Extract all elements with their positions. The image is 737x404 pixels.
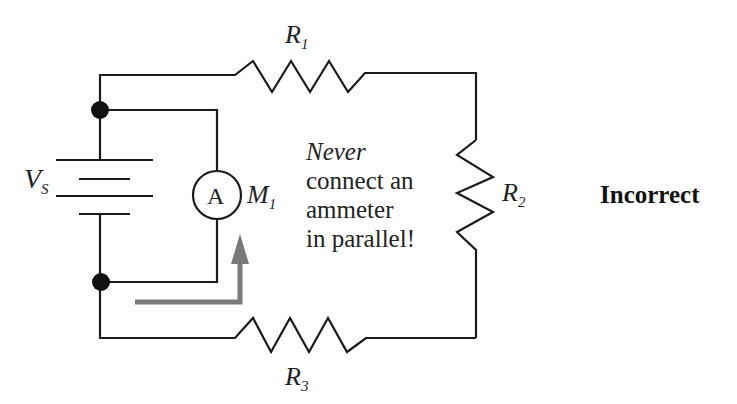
label-r1-symbol: R: [285, 20, 301, 49]
warning-note: Never connect an ammeter in parallel!: [306, 137, 415, 253]
label-r1-subscript: 1: [301, 36, 309, 52]
note-line-4: in parallel!: [306, 224, 415, 253]
label-m1-symbol: M: [247, 180, 269, 209]
current-arrow-icon: [135, 234, 249, 302]
label-r3-symbol: R: [285, 362, 301, 391]
verdict-label: Incorrect: [600, 181, 700, 209]
note-line-3: ammeter: [306, 195, 415, 224]
note-line-2: connect an: [306, 166, 415, 195]
label-vs: VS: [24, 165, 49, 193]
label-vs-subscript: S: [41, 181, 49, 197]
ammeter-branch-bottom: [100, 219, 217, 282]
note-line-1: Never: [306, 137, 415, 166]
label-r2: R2: [502, 180, 525, 206]
label-r2-subscript: 2: [518, 194, 526, 210]
label-r1: R1: [285, 22, 308, 48]
ammeter-glyph: A: [207, 184, 224, 208]
label-m1: M1: [247, 182, 276, 208]
label-r3-subscript: 3: [301, 378, 309, 394]
node-dot-top: [91, 101, 109, 119]
battery-symbol: [56, 160, 153, 214]
resistor-r2: [457, 140, 493, 338]
node-dot-bottom: [92, 273, 110, 291]
label-m1-subscript: 1: [269, 196, 277, 212]
label-r2-symbol: R: [502, 178, 518, 207]
label-r3: R3: [285, 364, 308, 390]
label-vs-symbol: V: [24, 163, 41, 194]
ammeter-branch-top: [100, 110, 217, 171]
